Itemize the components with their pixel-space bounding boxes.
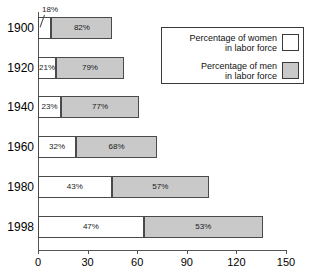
legend-women-line1: Percentage of women bbox=[189, 33, 277, 43]
bar-row: 43%57% bbox=[38, 176, 209, 198]
bar-segment-women bbox=[38, 17, 51, 39]
bar-row: 82% bbox=[38, 17, 112, 39]
legend-item-men: Percentage of men in labor force bbox=[162, 58, 305, 83]
x-tick-30 bbox=[88, 250, 89, 254]
legend-label-women: Percentage of women in labor force bbox=[189, 33, 282, 53]
bar-segment-women: 43% bbox=[38, 176, 112, 198]
y-axis-label-1980: 1980 bbox=[7, 180, 34, 194]
x-tick-150 bbox=[286, 250, 287, 254]
white-swatch-icon bbox=[282, 34, 299, 51]
bar-segment-men: 82% bbox=[51, 17, 112, 39]
bar-row: 23%77% bbox=[38, 96, 139, 118]
y-axis-label-1960: 1960 bbox=[7, 140, 34, 154]
x-tick-label-150: 150 bbox=[269, 256, 303, 268]
bar-segment-men: 53% bbox=[144, 216, 263, 238]
bar-row: 47%53% bbox=[38, 216, 263, 238]
x-tick-label-120: 120 bbox=[219, 256, 253, 268]
legend-men-line1: Percentage of men bbox=[201, 61, 277, 71]
legend-label-men: Percentage of men in labor force bbox=[201, 61, 282, 81]
callout-label-women: 18% bbox=[42, 5, 58, 14]
x-tick-label-30: 30 bbox=[71, 256, 105, 268]
legend-men-line2: in labor force bbox=[225, 71, 277, 81]
x-tick-label-0: 0 bbox=[21, 256, 55, 268]
legend-women-line2: in labor force bbox=[225, 43, 277, 53]
y-axis-label-1998: 1998 bbox=[7, 220, 34, 234]
bar-segment-men: 68% bbox=[76, 136, 157, 158]
y-axis-label-1900: 1900 bbox=[7, 21, 34, 35]
bar-segment-women: 21% bbox=[38, 57, 56, 79]
gray-swatch-icon bbox=[282, 62, 299, 79]
bar-row: 32%68% bbox=[38, 136, 157, 158]
x-tick-120 bbox=[236, 250, 237, 254]
bar-segment-women: 23% bbox=[38, 96, 61, 118]
bar-chart: 190082%18%192021%79%194023%77%196032%68%… bbox=[0, 0, 316, 275]
bar-segment-men: 57% bbox=[112, 176, 210, 198]
y-axis-line bbox=[38, 12, 39, 250]
x-tick-60 bbox=[137, 250, 138, 254]
chart-title bbox=[60, 0, 260, 5]
bar-row: 21%79% bbox=[38, 57, 124, 79]
bar-segment-men: 77% bbox=[61, 96, 139, 118]
y-axis-label-1940: 1940 bbox=[7, 100, 34, 114]
legend-item-women: Percentage of women in labor force bbox=[162, 30, 305, 55]
x-axis-line bbox=[38, 250, 286, 251]
x-tick-label-60: 60 bbox=[120, 256, 154, 268]
y-axis-label-1920: 1920 bbox=[7, 61, 34, 75]
x-tick-90 bbox=[187, 250, 188, 254]
legend: Percentage of women in labor force Perce… bbox=[161, 27, 304, 84]
x-tick-label-90: 90 bbox=[170, 256, 204, 268]
bar-segment-men: 79% bbox=[56, 57, 124, 79]
bar-segment-women: 32% bbox=[38, 136, 76, 158]
bar-segment-women: 47% bbox=[38, 216, 144, 238]
x-tick-0 bbox=[38, 250, 39, 254]
